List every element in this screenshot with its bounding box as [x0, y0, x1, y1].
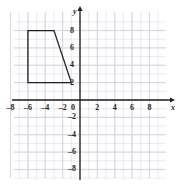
major-gridlines — [11, 12, 166, 178]
graph-canvas — [0, 0, 180, 185]
y-tick-6: 6 — [66, 44, 78, 52]
y-tick--6: –6 — [66, 148, 78, 156]
x-tick-6: 6 — [125, 104, 139, 112]
y-tick--8: –8 — [66, 165, 78, 173]
x-tick--8: –8 — [4, 104, 18, 112]
x-tick-2: 2 — [90, 104, 104, 112]
coordinate-plane-figure: –8–6–4–224688642–2–4–6–80 x y — [0, 0, 180, 185]
y-tick--4: –4 — [66, 131, 78, 139]
origin-tick: 0 — [67, 104, 79, 112]
minor-gridlines — [14, 12, 166, 178]
y-axis-label: y — [73, 8, 77, 16]
x-tick--6: –6 — [21, 104, 35, 112]
y-tick-8: 8 — [66, 27, 78, 35]
x-tick--4: –4 — [38, 104, 52, 112]
x-tick-8: 8 — [142, 104, 156, 112]
y-tick-2: 2 — [66, 79, 78, 87]
y-tick--2: –2 — [66, 113, 78, 121]
y-tick-4: 4 — [66, 61, 78, 69]
x-axis-label: x — [171, 104, 175, 112]
x-tick-4: 4 — [108, 104, 122, 112]
